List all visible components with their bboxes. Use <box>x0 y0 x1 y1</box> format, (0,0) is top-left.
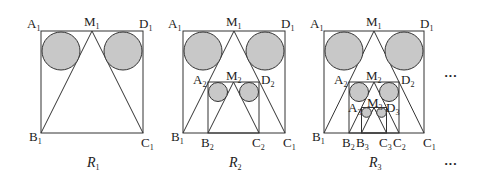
label-m3: M3 <box>367 95 383 112</box>
fractal-square-diagram: A1 M1 D1 B1 C1 R1 A1 M1 D1 A2 M2 D2 B1 B… <box>0 0 478 181</box>
shaded-circle-small-left <box>350 83 369 102</box>
label-c2: C2 <box>393 135 406 152</box>
label-c1: C1 <box>283 135 296 152</box>
label-m1: M1 <box>84 14 100 31</box>
ellipsis-bottom: ··· <box>444 156 457 171</box>
label-c1: C1 <box>423 135 436 152</box>
shaded-circle-left <box>42 32 80 70</box>
label-c2: C2 <box>252 135 265 152</box>
ellipsis-top: ··· <box>444 68 457 83</box>
label-m2: M2 <box>226 68 242 85</box>
figure-r2: A1 M1 D1 A2 M2 D2 B1 B2 C2 C1 R2 <box>168 14 296 172</box>
label-b2: B2 <box>201 135 214 152</box>
label-a2: A2 <box>334 72 347 89</box>
label-b1: B1 <box>171 129 184 146</box>
label-d1: D1 <box>281 16 294 33</box>
label-a2: A2 <box>193 72 206 89</box>
label-d1: D1 <box>139 16 152 33</box>
label-d2: D2 <box>401 72 414 89</box>
label-c1: C1 <box>141 135 154 152</box>
label-m1: M1 <box>366 14 382 31</box>
label-d3: D3 <box>386 100 399 117</box>
label-d1: D1 <box>420 16 433 33</box>
figure-r3: A1 M1 D1 A2 M2 D2 A3 M3 D3 B1 B2 B3 C3 C… <box>310 14 436 172</box>
caption-r1: R1 <box>86 155 100 172</box>
figure-r1: A1 M1 D1 B1 C1 R1 <box>27 14 154 172</box>
label-c3: C3 <box>379 135 392 152</box>
label-a1: A1 <box>310 16 323 33</box>
shaded-circle-right <box>246 32 284 70</box>
label-a1: A1 <box>168 16 181 33</box>
shaded-circle-right <box>104 32 142 70</box>
shaded-circle-left <box>325 32 363 70</box>
shaded-circle-small-right <box>380 83 399 102</box>
shaded-circle-small-left <box>209 83 228 102</box>
label-b1: B1 <box>312 129 325 146</box>
label-b3: B3 <box>356 135 369 152</box>
caption-r2: R2 <box>228 155 242 172</box>
shaded-circle-right <box>385 32 423 70</box>
shaded-circle-small-right <box>240 83 259 102</box>
label-d2: D2 <box>261 72 274 89</box>
label-b2: B2 <box>342 135 355 152</box>
caption-r3: R3 <box>368 155 382 172</box>
shaded-circle-left <box>184 32 222 70</box>
label-a1: A1 <box>27 16 40 33</box>
label-m1: M1 <box>226 14 242 31</box>
label-b1: B1 <box>29 129 42 146</box>
label-a3: A3 <box>348 100 361 117</box>
label-m2: M2 <box>366 68 382 85</box>
